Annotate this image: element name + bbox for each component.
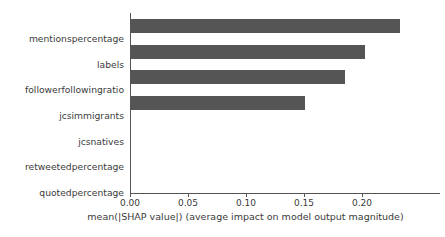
x-axis-tick-label: 0.10: [226, 198, 266, 208]
x-axis-spine: [130, 193, 440, 194]
x-axis-title: mean(|SHAP value|) (average impact on mo…: [0, 211, 445, 222]
bar: [130, 45, 365, 59]
x-axis-tick-mark: [130, 194, 131, 197]
x-axis-tick-label: 0.15: [284, 198, 324, 208]
bar: [130, 19, 400, 33]
x-axis-tick-mark: [246, 194, 247, 197]
x-axis-tick-mark: [362, 194, 363, 197]
shap-summary-bar-chart: mentionspercentagelabelsfollowerfollowin…: [0, 0, 445, 237]
y-axis-tick-label: followerfollowingratio: [0, 85, 124, 95]
x-axis-tick-mark: [304, 194, 305, 197]
plot-area: [130, 13, 440, 193]
y-axis-tick-label: retweetedpercentage: [0, 162, 124, 172]
x-axis-title-text: mean(|SHAP value|) (average impact on mo…: [87, 211, 403, 222]
y-axis-tick-label: mentionspercentage: [0, 34, 124, 44]
x-axis-tick-mark: [188, 194, 189, 197]
x-axis-tick-label: 0.05: [168, 198, 208, 208]
bar: [130, 70, 345, 84]
x-axis-tick-label: 0.20: [342, 198, 382, 208]
y-axis-tick-label: labels: [0, 60, 124, 70]
x-axis-tick-label: 0.00: [110, 198, 150, 208]
y-axis-tick-label: quotedpercentage: [0, 188, 124, 198]
y-axis-tick-label: jcsnatives: [0, 137, 124, 147]
bar: [130, 96, 305, 110]
y-axis-tick-label: jcsimmigrants: [0, 111, 124, 121]
y-axis-tick-labels: mentionspercentagelabelsfollowerfollowin…: [0, 13, 124, 193]
